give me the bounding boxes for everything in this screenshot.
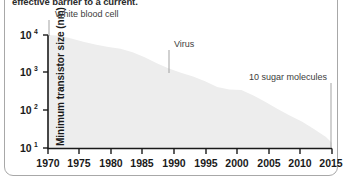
- annotation-label-white-blood-cell: White blood cell: [55, 9, 119, 19]
- x-tick-label-2005: 2005: [257, 157, 281, 169]
- x-tick-label-1970: 1970: [36, 157, 60, 169]
- area-fill: [48, 35, 332, 149]
- y-tick-base-1: 10: [20, 66, 32, 78]
- annotation-virus: Virus: [169, 39, 195, 73]
- y-axis-title: Minimum transistor size (nm): [55, 7, 66, 146]
- annotation-label-sugar-molecules: 10 sugar molecules: [249, 72, 328, 82]
- x-tick-label-1995: 1995: [194, 157, 218, 169]
- annotation-label-virus: Virus: [174, 39, 195, 49]
- y-tick-exp-0: 4: [34, 28, 38, 35]
- x-tick-label-1980: 1980: [99, 157, 123, 169]
- y-tick-exp-1: 3: [34, 65, 38, 72]
- y-tick-exp-3: 1: [34, 141, 38, 148]
- y-tick-base-0: 10: [20, 29, 32, 41]
- x-tick-label-2010: 2010: [288, 157, 312, 169]
- transistor-size-chart: 10 4 10 3 10 2 10 1 Minimum transistor s…: [0, 0, 346, 184]
- y-tick-label-100: 10 2: [20, 103, 38, 116]
- x-tick-label-1975: 1975: [67, 157, 91, 169]
- y-tick-base-3: 10: [20, 142, 32, 154]
- y-tick-label-10: 10 1: [20, 141, 38, 154]
- x-axis-ticks: [48, 149, 332, 155]
- y-tick-label-10000: 10 4: [20, 28, 38, 41]
- x-tick-label-2000: 2000: [225, 157, 249, 169]
- chart-plot-area: 10 4 10 3 10 2 10 1 Minimum transistor s…: [0, 0, 346, 184]
- x-tick-label-1990: 1990: [162, 157, 186, 169]
- y-tick-exp-2: 2: [34, 103, 38, 110]
- y-tick-base-2: 10: [20, 104, 32, 116]
- x-tick-label-1985: 1985: [130, 157, 154, 169]
- y-tick-label-1000: 10 3: [20, 65, 38, 78]
- x-tick-label-2015: 2015: [319, 157, 343, 169]
